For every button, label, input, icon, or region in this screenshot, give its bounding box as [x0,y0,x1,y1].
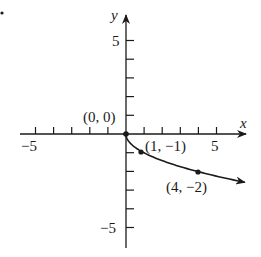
y-tick-label-neg5: −5 [100,220,116,236]
bullet-dot [0,11,3,14]
point-1-neg1 [138,149,143,154]
point-label-origin: (0, 0) [83,109,116,126]
y-tick-label-5: 5 [112,33,120,49]
point-label-4-neg2: (4, −2) [166,179,207,196]
x-tick-label-neg5: −5 [21,138,37,154]
point-label-1-neg1: (1, −1) [145,138,186,155]
point-origin [123,131,129,137]
point-4-neg2 [195,169,200,174]
x-tick-label-5: 5 [211,138,219,154]
y-axis-label: y [109,7,118,23]
x-axis-label: x [239,115,247,131]
graph-of-negative-sqrt: x y −5 5 5 −5 (0, 0) (1, −1) (4, −2) [0,0,261,257]
